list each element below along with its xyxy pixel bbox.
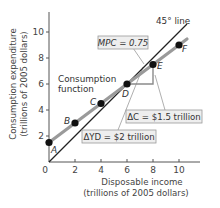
consumption-function-chart: 2 4 6 8 10 0 2 4 6 8 10 Disposable incom… [0,0,220,208]
x-axis-title-units: (trillions of 2005 dollars) [83,188,188,198]
point-c [97,100,104,107]
point-label-e: E [157,61,163,71]
consumption-function-label: Consumption [58,74,116,84]
y-axis-title-units: (trillions of 2005 dollars) [19,31,29,136]
delta-yd-text: ΔYD = $2 trillion [83,132,154,142]
x-axis-title: Disposable income [101,177,182,187]
point-b [71,119,78,126]
y-tick-label: 8 [38,53,44,63]
point-label-c: C [90,97,97,107]
mpc-annotation: MPC = 0.75 [98,36,148,49]
y-tick-label: 10 [33,27,45,37]
point-label-a: A [50,145,57,155]
x-tick-label: 0 [42,165,48,175]
y-ticks: 2 4 6 8 10 [33,27,49,141]
x-tick-label: 8 [150,165,156,175]
delta-c-annotation: ΔC = $1.5 trillion [126,110,202,123]
delta-yd-annotation: ΔYD = $2 trillion [82,130,156,143]
x-tick-label: 10 [173,165,185,175]
x-ticks: 0 2 4 6 8 10 [42,159,185,175]
point-label-d: D [122,89,129,99]
point-e [149,61,156,68]
45-degree-line-label: 45° line [156,16,190,26]
y-tick-label: 2 [38,131,44,141]
y-axis-title: Consumption expenditure [8,28,18,139]
y-tick-label: 6 [38,79,44,89]
point-label-b: B [64,116,70,126]
mpc-text: MPC = 0.75 [98,38,148,48]
point-d [123,80,130,87]
consumption-function-label-2: function [58,84,94,94]
x-tick-label: 4 [98,165,104,175]
point-label-f: F [182,44,188,54]
y-axis-title-group: Consumption expenditure (trillions of 20… [8,28,29,139]
x-tick-label: 2 [72,165,78,175]
x-tick-label: 6 [124,165,130,175]
delta-c-text: ΔC = $1.5 trillion [127,112,201,122]
y-tick-label: 4 [38,105,44,115]
